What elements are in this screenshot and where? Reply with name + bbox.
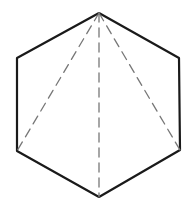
dashed-diagonal-to-lower-right [99,13,180,150]
dashed-diagonal-to-lower-left [17,13,99,151]
hexagon-diagram [0,0,190,211]
